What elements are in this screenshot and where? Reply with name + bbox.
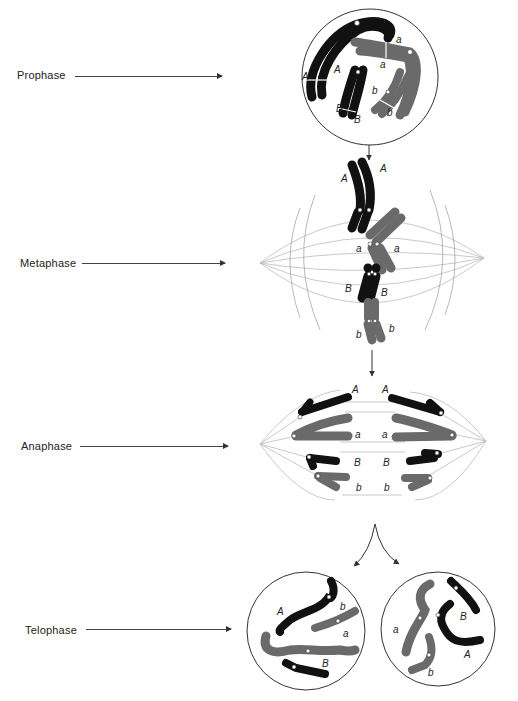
allele-label: A xyxy=(301,71,309,82)
chromosome-A-metaphase xyxy=(352,162,371,229)
centromere xyxy=(367,272,371,276)
allele-label: b xyxy=(428,667,434,678)
allele-label: a xyxy=(380,59,386,70)
telophase-cell-left: A b a B xyxy=(247,572,365,690)
allele-label: B xyxy=(345,283,352,294)
centromere xyxy=(373,319,377,323)
centromere xyxy=(307,455,311,459)
anaphase-chromosomes: A A a a B B b b xyxy=(292,384,454,493)
allele-label: A xyxy=(463,649,471,660)
allele-label: b xyxy=(356,482,362,493)
centromere xyxy=(316,474,320,478)
prophase-cell: A A B B a a b b xyxy=(301,9,438,145)
allele-label: B xyxy=(354,114,361,125)
centromere xyxy=(436,613,440,617)
allele-label: A xyxy=(351,384,359,395)
centromere xyxy=(367,319,371,323)
allele-label: a xyxy=(356,243,362,254)
centromere xyxy=(292,665,296,669)
chromosome-a-telophase-left xyxy=(265,636,355,652)
allele-label: B xyxy=(354,457,361,468)
centromere xyxy=(356,70,360,74)
centromere xyxy=(355,21,360,26)
centromere xyxy=(435,451,439,455)
centromere xyxy=(367,208,371,212)
centromere xyxy=(454,586,458,590)
centromere xyxy=(427,653,431,657)
allele-label: A xyxy=(276,606,284,617)
allele-label: b xyxy=(356,329,362,340)
allele-label: A xyxy=(379,163,387,174)
allele-label: a xyxy=(394,243,400,254)
centromere xyxy=(358,208,362,212)
allele-label: b xyxy=(340,601,346,612)
allele-label: b xyxy=(384,482,390,493)
allele-label: B xyxy=(336,103,343,114)
chromosome-a-right-arm xyxy=(396,436,452,437)
allele-label: b xyxy=(372,85,378,96)
centromere xyxy=(428,476,432,480)
centromere xyxy=(327,595,331,599)
allele-label: B xyxy=(322,658,329,669)
allele-label: B xyxy=(383,457,390,468)
allele-label: b xyxy=(389,323,395,334)
chromosome-B-telophase-left xyxy=(286,663,325,674)
metaphase-chromosomes: A A a a B B b b xyxy=(340,162,401,340)
chromosome-B-right xyxy=(410,458,434,461)
centromere xyxy=(439,411,443,415)
centromere xyxy=(450,433,454,437)
flow-arrow-left xyxy=(354,524,375,566)
mitosis-diagram: A A B B a a b b xyxy=(0,0,518,701)
allele-label: a xyxy=(396,34,402,45)
centromere xyxy=(373,272,377,276)
flow-arrow-right xyxy=(375,524,399,564)
allele-label: A xyxy=(340,173,348,184)
centromere xyxy=(418,616,422,620)
centromere xyxy=(298,415,302,419)
allele-label: B xyxy=(381,287,388,298)
allele-label: A xyxy=(381,384,389,395)
telophase-cell-right: a B A b xyxy=(381,572,495,686)
centromere xyxy=(306,649,310,653)
anaphase-spindle xyxy=(260,390,486,500)
allele-label: A xyxy=(333,64,341,75)
chromosome-B-left-arm xyxy=(310,458,313,466)
centromere xyxy=(408,50,413,55)
chromosome-b-telophase-left xyxy=(315,611,355,628)
allele-label: B xyxy=(460,611,467,622)
centromere xyxy=(375,242,379,246)
centromere xyxy=(336,619,340,623)
allele-label: b xyxy=(387,107,393,118)
centromere xyxy=(368,242,372,246)
chromosome-B-telophase-right xyxy=(451,581,476,610)
chromosome-b-metaphase xyxy=(367,302,381,340)
chromosome-a-metaphase xyxy=(368,212,401,270)
centromere xyxy=(386,90,390,94)
allele-label: a xyxy=(393,624,399,635)
chromosome-B-metaphase xyxy=(362,264,381,301)
centromere xyxy=(292,434,296,438)
allele-label: a xyxy=(355,429,361,440)
allele-label: a xyxy=(343,628,349,639)
allele-label: a xyxy=(382,429,388,440)
